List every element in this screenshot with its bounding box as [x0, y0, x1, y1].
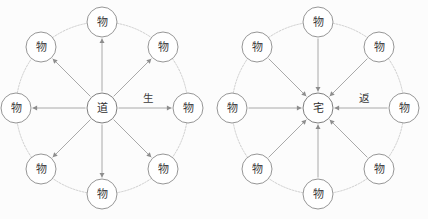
arrow-head-0 — [100, 39, 105, 44]
arrow-head-4 — [100, 173, 105, 178]
node-label-6: 物 — [11, 101, 22, 115]
node-label-2: 物 — [183, 101, 194, 115]
node-label-6: 物 — [227, 101, 238, 115]
figure-root: 物物物物物物物物道生 物物物物物物物物宅返 — [0, 0, 428, 219]
node-label-2: 物 — [399, 101, 410, 115]
node-label-0: 物 — [97, 15, 108, 29]
ring-arc-1 — [172, 59, 186, 93]
ring-arc-4 — [53, 178, 87, 192]
node-label-5: 物 — [36, 162, 47, 176]
node-label-1: 物 — [158, 40, 169, 54]
ring-arc-6 — [233, 59, 247, 93]
arrow-head-0 — [316, 87, 321, 92]
arrow-head-6 — [33, 106, 38, 111]
spoke-line-1 — [330, 59, 368, 97]
ring-arc-5 — [17, 123, 31, 157]
ring-arc-4 — [269, 178, 303, 192]
spoke-line-7 — [53, 59, 91, 97]
ring-arc-3 — [333, 178, 367, 192]
spoke-line-7 — [269, 59, 307, 97]
node-label-4: 物 — [97, 187, 108, 201]
center-node-label: 道 — [97, 101, 108, 115]
spoke-line-5 — [53, 120, 91, 158]
spoke-line-5 — [269, 120, 307, 158]
left-diagram: 物物物物物物物物道生 — [1, 7, 203, 209]
node-label-0: 物 — [313, 15, 324, 29]
node-label-7: 物 — [36, 40, 47, 54]
node-label-3: 物 — [158, 162, 169, 176]
ring-arc-1 — [388, 59, 402, 93]
ring-arc-7 — [269, 23, 303, 37]
ring-arc-5 — [233, 123, 247, 157]
ring-arc-2 — [172, 123, 186, 157]
arrow-head-2 — [335, 106, 340, 111]
node-label-7: 物 — [252, 40, 263, 54]
node-label-3: 物 — [374, 162, 385, 176]
ring-arc-7 — [53, 23, 87, 37]
node-label-4: 物 — [313, 187, 324, 201]
spoke-line-3 — [330, 120, 368, 158]
edge-relation-label: 返 — [359, 92, 370, 104]
ring-arc-0 — [333, 23, 367, 37]
edge-relation-label: 生 — [143, 92, 153, 104]
ring-arc-0 — [117, 23, 151, 37]
arrow-head-4 — [316, 125, 321, 130]
arrow-head-2 — [167, 106, 172, 111]
node-label-1: 物 — [374, 40, 385, 54]
arrow-head-6 — [297, 106, 302, 111]
ring-arc-3 — [117, 178, 151, 192]
right-diagram: 物物物物物物物物宅返 — [217, 7, 419, 209]
node-label-5: 物 — [252, 162, 263, 176]
ring-arc-6 — [17, 59, 31, 93]
spoke-line-3 — [114, 120, 152, 158]
center-node-label: 宅 — [313, 101, 324, 115]
spoke-line-1 — [114, 59, 152, 97]
ring-arc-2 — [388, 123, 402, 157]
diagram-canvas: 物物物物物物物物道生 物物物物物物物物宅返 — [0, 0, 428, 219]
